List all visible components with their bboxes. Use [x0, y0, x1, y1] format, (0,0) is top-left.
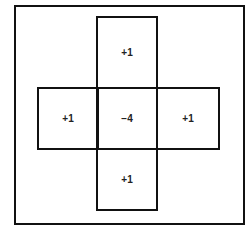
kernel-cell-left: +1	[37, 87, 99, 150]
kernel-cell-top: +1	[96, 16, 158, 89]
cell-value-right: +1	[182, 113, 193, 124]
kernel-cell-bottom: +1	[96, 148, 158, 211]
cell-value-left: +1	[62, 113, 73, 124]
cell-value-bottom: +1	[121, 174, 132, 185]
kernel-cell-right: +1	[156, 87, 220, 150]
kernel-cell-center: −4	[96, 87, 158, 150]
cell-value-center: −4	[121, 113, 132, 124]
cell-value-top: +1	[121, 47, 132, 58]
